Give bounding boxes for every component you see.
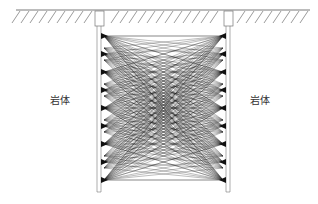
left-borehole-collar xyxy=(95,11,104,26)
tomography-diagram xyxy=(0,0,318,204)
right-borehole-collar xyxy=(224,11,233,26)
left-rock-label: 岩体 xyxy=(50,92,70,107)
right-source-marker xyxy=(219,105,226,111)
right-rock-label: 岩体 xyxy=(250,92,270,107)
left-source-marker xyxy=(101,105,108,111)
ray-paths xyxy=(104,36,223,180)
ground-surface xyxy=(12,10,310,23)
